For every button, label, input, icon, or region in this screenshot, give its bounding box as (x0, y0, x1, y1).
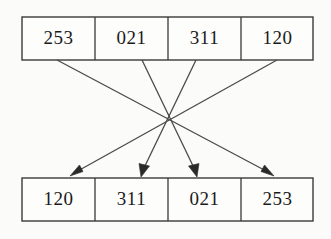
bottom-cell-2: 021 (190, 188, 220, 209)
top-cell-3: 120 (263, 27, 293, 48)
arrow-120 (70, 60, 277, 176)
top-row: 253 021 311 120 (22, 17, 313, 60)
bottom-cell-1: 311 (117, 188, 146, 209)
arrow-group (57, 60, 277, 177)
bottom-cell-0: 120 (44, 188, 74, 209)
arrow-head-311 (139, 164, 150, 178)
arrow-head-021 (189, 164, 200, 178)
top-cell-1: 021 (117, 27, 147, 48)
permutation-diagram: 253 021 311 120 (0, 0, 331, 239)
top-cell-0: 253 (44, 27, 74, 48)
top-cell-2: 311 (190, 27, 219, 48)
arrow-line-253 (57, 60, 268, 172)
arrow-line-311 (143, 60, 196, 170)
bottom-cell-3: 253 (263, 188, 293, 209)
arrow-021 (142, 60, 199, 177)
arrow-line-120 (76, 60, 277, 172)
diagram-canvas: 253 021 311 120 (0, 0, 331, 239)
arrow-311 (139, 60, 196, 177)
arrow-head-120 (70, 165, 83, 176)
arrow-253 (57, 60, 274, 176)
bottom-row: 120 311 021 253 (22, 178, 313, 221)
arrow-line-021 (142, 60, 195, 170)
arrow-head-253 (261, 165, 274, 176)
